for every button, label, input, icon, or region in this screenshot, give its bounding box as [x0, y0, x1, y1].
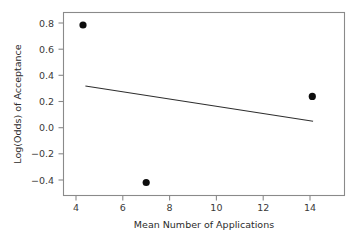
y-tick-label-2: 0.0 — [39, 122, 54, 133]
x-axis-title: Mean Number of Applications — [134, 219, 274, 230]
x-tick-label-5: 14 — [304, 202, 316, 213]
x-tick-label-2: 8 — [167, 202, 173, 213]
y-tick-label-1: −0.2 — [31, 148, 54, 159]
data-point-1 — [143, 179, 150, 186]
y-tick-label-0: −0.4 — [31, 175, 54, 186]
chart-canvas: 0.8 0.6 0.4 0.2 0.0 −0.2 −0.4 4 6 8 10 1… — [0, 0, 361, 236]
x-tick-label-0: 4 — [73, 202, 79, 213]
y-tick-label-3: 0.2 — [39, 96, 54, 107]
y-axis-tick-labels: 0.8 0.6 0.4 0.2 0.0 −0.2 −0.4 — [31, 18, 54, 186]
data-point-2 — [309, 93, 316, 100]
y-axis-title: Log(Odds) of Acceptance — [12, 44, 23, 164]
x-axis-tick-labels: 4 6 8 10 12 14 — [73, 202, 316, 213]
data-point-0 — [79, 21, 86, 28]
y-tick-label-6: 0.8 — [39, 18, 54, 29]
x-tick-label-4: 12 — [257, 202, 269, 213]
regression-line — [85, 86, 313, 121]
y-tick-label-4: 0.4 — [39, 70, 54, 81]
x-tick-label-1: 6 — [120, 202, 126, 213]
x-axis-ticks — [76, 196, 310, 201]
y-tick-label-5: 0.6 — [39, 44, 54, 55]
y-axis-ticks — [59, 23, 64, 180]
x-tick-label-3: 10 — [210, 202, 222, 213]
scatter-plot-figure: 0.8 0.6 0.4 0.2 0.0 −0.2 −0.4 4 6 8 10 1… — [0, 0, 361, 236]
